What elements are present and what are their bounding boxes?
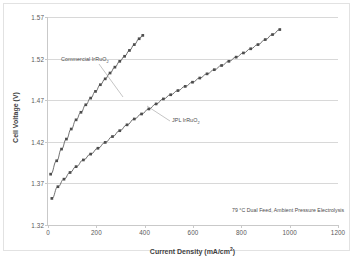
data-point-marker: [51, 197, 54, 200]
data-point-marker: [70, 128, 73, 131]
series-line: [52, 30, 280, 199]
data-point-marker: [220, 64, 223, 67]
data-point-marker: [69, 171, 72, 174]
annotation-conditions: 79 °C Dual Feed, Ambient Pressure Electr…: [232, 207, 344, 213]
data-point-marker: [177, 89, 180, 92]
data-point-marker: [57, 185, 60, 188]
series-jpl: [51, 28, 282, 200]
data-point-marker: [141, 34, 144, 37]
data-point-marker: [104, 141, 107, 144]
data-point-marker: [111, 135, 114, 138]
data-point-marker: [97, 147, 100, 150]
data-point-marker: [109, 72, 112, 75]
data-point-marker: [114, 66, 117, 69]
data-point-marker: [128, 49, 131, 52]
data-point-marker: [89, 97, 92, 100]
data-point-marker: [118, 60, 121, 63]
data-point-marker: [55, 159, 58, 162]
data-point-marker: [118, 129, 121, 132]
data-point-marker: [123, 55, 126, 58]
data-point-marker: [63, 178, 66, 181]
data-point-marker: [264, 38, 267, 41]
data-point-marker: [104, 78, 107, 81]
jpl-leader: [147, 106, 170, 121]
data-point-marker: [60, 148, 63, 151]
data-point-marker: [133, 43, 136, 46]
data-point-marker: [82, 159, 85, 162]
y-axis-title: Cell Voltage (V): [12, 58, 19, 178]
data-point-marker: [94, 90, 97, 93]
data-point-marker: [257, 43, 260, 46]
data-point-marker: [162, 98, 165, 101]
data-point-marker: [133, 118, 136, 121]
data-point-marker: [242, 52, 245, 55]
data-point-marker: [99, 83, 102, 86]
data-point-marker: [65, 138, 68, 141]
data-point-marker: [249, 47, 252, 50]
data-point-marker: [228, 60, 231, 63]
data-point-marker: [155, 103, 158, 106]
data-point-marker: [49, 173, 52, 176]
data-point-marker: [235, 56, 238, 59]
data-point-marker: [89, 153, 92, 156]
data-point-marker: [278, 28, 281, 31]
data-point-marker: [191, 81, 194, 84]
x-axis-title: Current Density (mA/cm2): [47, 246, 338, 255]
data-point-marker: [206, 73, 209, 76]
chart-frame: 1.321.371.421.471.521.57 020040060080010…: [3, 3, 350, 251]
data-point-marker: [80, 111, 83, 114]
data-point-marker: [126, 123, 129, 126]
data-point-marker: [213, 68, 216, 71]
series-label-commercial: Commercial IrRuO2: [61, 56, 109, 64]
data-point-marker: [75, 165, 78, 168]
data-series-layer: [4, 4, 351, 252]
data-point-marker: [184, 85, 187, 88]
series-label-jpl: JPL IrRuO2: [172, 117, 200, 125]
commercial-leader: [99, 64, 123, 97]
data-point-marker: [198, 77, 201, 80]
data-point-marker: [138, 37, 141, 40]
data-point-marker: [84, 103, 87, 106]
data-point-marker: [169, 93, 172, 96]
data-point-marker: [75, 118, 78, 121]
data-point-marker: [271, 33, 274, 36]
data-point-marker: [140, 113, 143, 116]
